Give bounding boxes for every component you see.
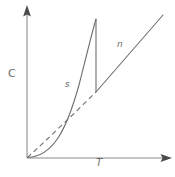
normal-branch-label: n <box>117 40 123 49</box>
x-axis-label: T <box>96 158 102 168</box>
heat-capacity-axis <box>23 5 31 158</box>
superconducting-branch-label: s <box>65 80 70 89</box>
heat-capacity-plot <box>0 0 175 177</box>
figure-canvas: C T s n <box>0 0 175 177</box>
superconducting-state-curve <box>28 19 97 158</box>
normal-state-dashed-segment <box>28 92 97 158</box>
y-axis-label: C <box>8 68 16 79</box>
normal-state-solid-segment <box>96 15 163 92</box>
